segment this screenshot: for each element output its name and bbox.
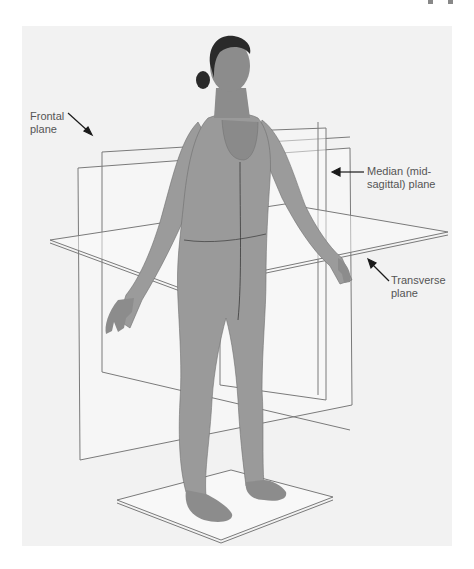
- label-line: plane: [391, 287, 446, 300]
- neck: [214, 88, 250, 118]
- transverse-arrow: [372, 264, 389, 281]
- frontal-plane-label: Frontal plane: [30, 110, 64, 136]
- label-line: sagittal) plane: [367, 178, 436, 191]
- torso: [177, 114, 270, 497]
- hair-bun: [196, 71, 210, 89]
- label-line: Frontal: [30, 110, 64, 123]
- label-line: plane: [30, 123, 64, 136]
- label-line: Median (mid-: [367, 165, 436, 178]
- transverse-plane-label: Transverse plane: [391, 274, 446, 300]
- label-line: Transverse: [391, 274, 446, 287]
- median-plane-label: Median (mid- sagittal) plane: [367, 165, 436, 191]
